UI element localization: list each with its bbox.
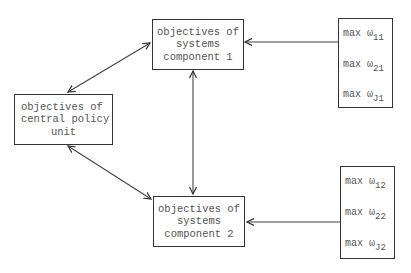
node-label-line: objectives of bbox=[15, 101, 103, 114]
node-label-line: central policy bbox=[15, 113, 109, 126]
edge-central-component2 bbox=[68, 146, 151, 199]
stack-item: max ω21 bbox=[343, 59, 384, 74]
objective-stack-1: max ω11 max ω21 max ωJ1 bbox=[338, 18, 393, 108]
node-label-line: component 1 bbox=[163, 51, 232, 64]
objective-stack-2: max ω12 max ω22 max ωJ2 bbox=[340, 166, 395, 259]
node-label-line: objectives of bbox=[157, 26, 239, 39]
node-label-line: systems bbox=[176, 38, 220, 51]
node-systems-component-2: objectives of systems component 2 bbox=[153, 196, 245, 247]
edge-central-component1 bbox=[68, 43, 150, 92]
stack-item: max ωJ2 bbox=[345, 238, 386, 253]
stack-item: max ω22 bbox=[345, 207, 386, 222]
stack-item: max ωJ1 bbox=[343, 89, 384, 104]
node-label-line: systems bbox=[177, 215, 221, 228]
node-label-line: component 2 bbox=[164, 228, 233, 241]
node-label-line: unit bbox=[51, 126, 76, 139]
node-systems-component-1: objectives of systems component 1 bbox=[152, 19, 244, 70]
stack-item: max ω12 bbox=[345, 176, 386, 191]
node-central-policy-unit: objectives of central policy unit bbox=[14, 94, 113, 145]
node-label-line: objectives of bbox=[158, 203, 240, 216]
stack-item: max ω11 bbox=[343, 28, 384, 43]
